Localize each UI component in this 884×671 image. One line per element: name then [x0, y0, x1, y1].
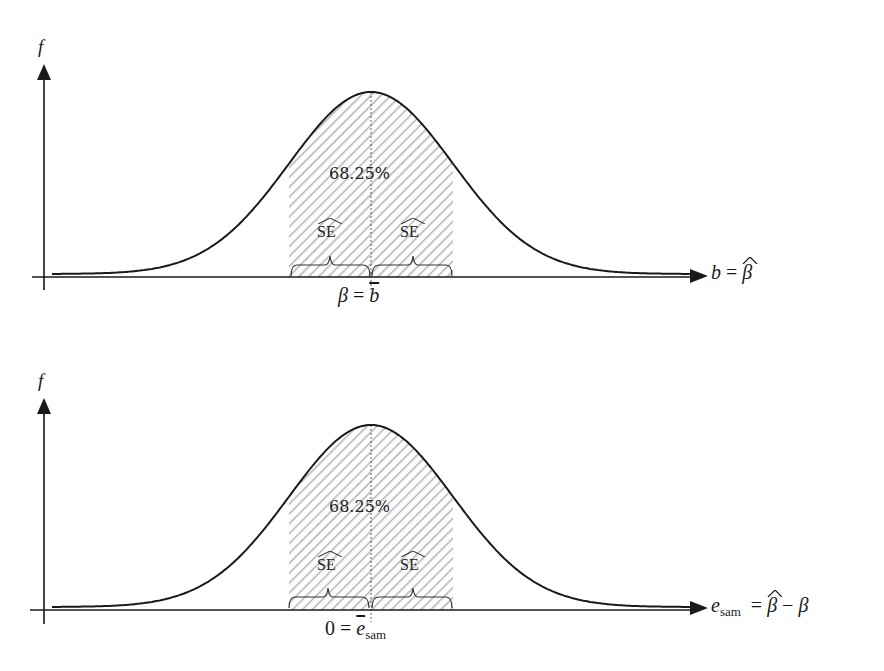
hat-icon: [318, 551, 342, 557]
bottom-y-axis-arrow-icon: [37, 398, 51, 414]
bottom-center-label: 0 = esam: [325, 617, 386, 643]
hat-icon: [401, 551, 425, 557]
bottom-x-axis-label: esam = β − β: [711, 594, 808, 620]
top-se-right-label: SE: [400, 223, 419, 241]
bottom-percent-label: 68.25%: [329, 497, 390, 516]
hat-icon: [767, 590, 783, 597]
bottom-x-axis-arrow-icon: [690, 601, 708, 615]
bottom-se-right-label: SE: [400, 556, 419, 574]
hat-icon: [318, 218, 342, 224]
bottom-se-left-label: SE: [317, 556, 336, 574]
top-percent-label: 68.25%: [329, 164, 390, 183]
top-x-axis-arrow-icon: [690, 269, 708, 283]
bottom-y-axis-label: f: [38, 370, 43, 392]
hat-icon: [742, 257, 758, 264]
top-x-axis-label: b = β: [711, 261, 752, 284]
top-y-axis-arrow-icon: [37, 64, 51, 80]
top-center-label: β = b: [338, 284, 379, 307]
top-y-axis-label: f: [38, 36, 43, 58]
hat-icon: [401, 218, 425, 224]
top-se-left-label: SE: [317, 223, 336, 241]
chart-canvas: [0, 0, 884, 671]
